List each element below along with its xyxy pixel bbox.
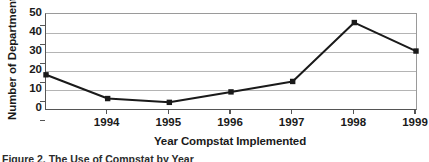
y-axis-tick bbox=[40, 63, 45, 64]
x-axis-tick bbox=[353, 109, 354, 114]
x-tick-label: 1996 bbox=[207, 117, 253, 129]
x-tick-label: 1994 bbox=[84, 117, 130, 129]
data-point-marker bbox=[105, 96, 110, 101]
y-axis-ticklabels: 01020304050 bbox=[18, 0, 42, 125]
x-tick-label: 1998 bbox=[330, 117, 376, 129]
x-axis-tick bbox=[106, 109, 107, 114]
data-point-marker bbox=[290, 79, 295, 84]
y-tick-label: 10 bbox=[18, 83, 42, 95]
x-axis-tick bbox=[414, 109, 415, 114]
data-point-marker bbox=[43, 72, 48, 77]
data-point-marker bbox=[413, 48, 418, 53]
y-axis-title: Number of Departments bbox=[6, 2, 18, 120]
x-axis-tick bbox=[229, 109, 230, 114]
y-axis-tick bbox=[40, 101, 45, 102]
data-point-marker bbox=[352, 20, 357, 25]
y-axis-tick bbox=[40, 120, 45, 121]
y-tick-label: 50 bbox=[18, 7, 42, 19]
x-tick-label: 1999 bbox=[392, 117, 429, 129]
y-axis-tick bbox=[40, 82, 45, 83]
plot-area bbox=[45, 13, 417, 110]
x-tick-label: 1997 bbox=[269, 117, 315, 129]
line-series-svg bbox=[46, 14, 416, 109]
data-point-marker bbox=[167, 100, 172, 105]
x-axis-tick bbox=[291, 109, 292, 114]
x-axis-title: Year Compstat Implemented bbox=[45, 135, 415, 147]
y-axis-tick bbox=[40, 44, 45, 45]
figure-caption: Figure 2. The Use of Compstat by Year bbox=[2, 153, 429, 162]
y-axis-tick bbox=[40, 25, 45, 26]
chart-figure: Number of Departments 01020304050 Year C… bbox=[0, 0, 429, 162]
y-tick-label: 40 bbox=[18, 26, 42, 38]
y-tick-label: 30 bbox=[18, 45, 42, 57]
data-point-marker bbox=[228, 89, 233, 94]
y-tick-label: 20 bbox=[18, 64, 42, 76]
y-tick-label: 0 bbox=[18, 102, 42, 114]
x-axis-tick bbox=[168, 109, 169, 114]
x-tick-label: 1995 bbox=[145, 117, 191, 129]
